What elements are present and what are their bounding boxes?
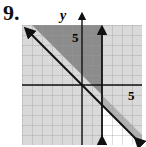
inequality-graph: y 5 5	[0, 0, 146, 147]
x-tick-label: 5	[128, 88, 135, 103]
y-axis-label: y	[58, 8, 67, 23]
y-tick-label: 5	[72, 30, 79, 45]
